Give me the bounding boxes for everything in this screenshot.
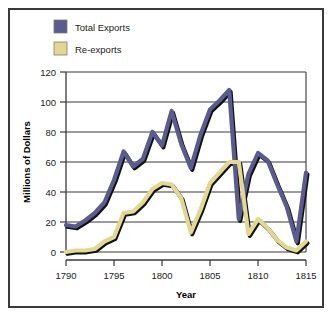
legend-label-total-exports: Total Exports [75,22,130,33]
x-tick-marks [66,260,306,266]
y-tick-label-60: 60 [45,157,56,168]
legend-label-re-exports: Re-exports [75,44,122,55]
exports-line-chart: Total Exports Re-exports [10,10,322,306]
chart-frame: Total Exports Re-exports [8,8,324,308]
x-tick-label-1790: 1790 [55,270,76,281]
x-tick-label-1805: 1805 [199,270,220,281]
x-tick-labels: 1790 1795 1800 1805 1810 1815 [55,270,316,281]
x-tick-label-1800: 1800 [151,270,172,281]
x-tick-label-1810: 1810 [247,270,268,281]
y-tick-labels: 120 100 80 60 40 20 0 [40,67,56,258]
chart-figure: Total Exports Re-exports [0,0,333,318]
y-tick-label-0: 0 [51,247,56,258]
chart-legend: Total Exports Re-exports [54,20,130,55]
legend-swatch-total-exports [54,20,67,33]
y-axis-title: Millions of Dollars [21,121,32,203]
x-tick-label-1795: 1795 [103,270,124,281]
legend-swatch-re-exports [54,42,67,55]
y-tick-label-100: 100 [40,97,56,108]
y-tick-label-40: 40 [45,187,56,198]
y-tick-label-20: 20 [45,217,56,228]
y-tick-label-120: 120 [40,67,56,78]
series-lines [66,90,306,252]
x-axis-title: Year [176,289,196,300]
x-tick-label-1815: 1815 [295,270,316,281]
y-tick-label-80: 80 [45,127,56,138]
